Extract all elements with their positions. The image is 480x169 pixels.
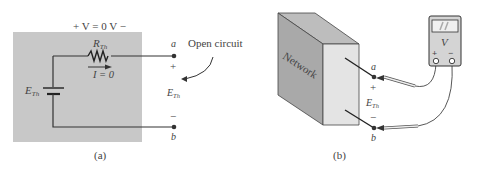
terminal-a-label: a [371, 61, 376, 72]
open-circuit-arrow-icon [181, 57, 213, 82]
eth-label: ETh [365, 97, 379, 109]
meter-minus-jack [449, 58, 454, 63]
minus-sign: − [170, 110, 176, 122]
terminal-a-label: a [171, 38, 176, 49]
current-label: I = 0 [92, 69, 115, 80]
terminal-b-label: b [171, 131, 176, 142]
meter-plus-label: + [432, 48, 437, 58]
open-circuit-label: Open circuit [188, 37, 243, 49]
terminal-b-label: b [371, 132, 376, 143]
caption-a: (a) [94, 149, 107, 162]
plus-sign: + [170, 60, 176, 72]
minus-sign: − [370, 111, 376, 123]
plus-sign: + [370, 81, 376, 93]
terminal-a-dot [372, 75, 377, 80]
eth-label: ETh [166, 87, 180, 99]
panel-b-voltmeter-measurement: Network V + − a [278, 13, 461, 162]
caption-b: (b) [333, 149, 346, 162]
probe-minus-icon [376, 63, 452, 131]
panel-a-thevenin-circuit: + V = 0 V − RTh I = 0 ETh a + ETh − b Op… [13, 20, 243, 162]
meter-minus-label: − [448, 48, 453, 58]
voltage-label: + V = 0 V − [73, 20, 126, 32]
probe-plus-icon [376, 63, 436, 87]
meter-plus-jack [433, 58, 438, 63]
terminal-b-dot [372, 126, 377, 131]
terminal-a-dot [172, 54, 177, 59]
terminal-b-dot [172, 125, 177, 130]
network-box [13, 32, 142, 142]
